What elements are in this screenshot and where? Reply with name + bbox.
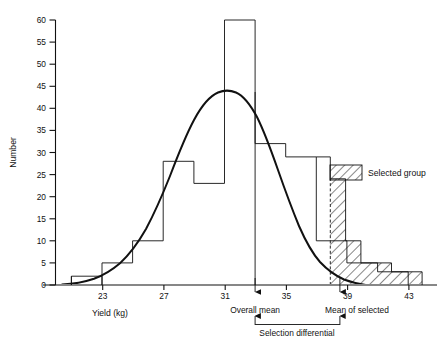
selection-differential-marker: Selection differential xyxy=(255,316,340,338)
overall-mean-marker: Overall mean xyxy=(230,92,280,315)
chart-svg: 0 5 10 15 20 25 30 35 40 45 50 55 60 Num… xyxy=(0,0,439,340)
y-tick-label: 5 xyxy=(41,258,46,268)
x-tick-label: 31 xyxy=(221,291,231,301)
legend: Selected group xyxy=(330,165,426,180)
selected-group-region xyxy=(330,179,422,285)
normal-curve xyxy=(62,91,437,287)
y-axis: 0 5 10 15 20 25 30 35 40 45 50 55 60 Num… xyxy=(8,15,56,290)
x-tick-label: 39 xyxy=(343,291,353,301)
legend-swatch-selected-group xyxy=(330,165,362,180)
y-axis-title: Number xyxy=(8,137,18,168)
overall-mean-label: Overall mean xyxy=(230,305,280,315)
x-axis-ticks xyxy=(103,285,409,290)
y-tick-label: 15 xyxy=(37,214,47,224)
y-tick-label: 10 xyxy=(37,236,47,246)
x-tick-label: 23 xyxy=(98,291,108,301)
selected-hatch-fill xyxy=(330,179,422,285)
y-tick-label: 40 xyxy=(37,103,47,113)
x-tick-label: 27 xyxy=(159,291,169,301)
legend-label-selected-group: Selected group xyxy=(368,168,426,178)
normal-curve-path xyxy=(62,91,437,287)
y-tick-label: 30 xyxy=(37,148,47,158)
y-tick-label: 60 xyxy=(37,15,47,25)
y-tick-label: 20 xyxy=(37,192,47,202)
x-axis-tick-labels: 23 27 31 35 39 43 xyxy=(98,291,414,301)
histogram-figure: 0 5 10 15 20 25 30 35 40 45 50 55 60 Num… xyxy=(0,0,439,340)
y-axis-tick-labels: 0 5 10 15 20 25 30 35 40 45 50 55 60 xyxy=(37,15,47,290)
y-tick-label: 50 xyxy=(37,59,47,69)
y-axis-ticks xyxy=(50,20,56,285)
x-tick-label: 35 xyxy=(282,291,292,301)
selection-differential-label: Selection differential xyxy=(259,328,334,338)
y-tick-label: 25 xyxy=(37,170,47,180)
y-tick-label: 35 xyxy=(37,125,47,135)
y-tick-label: 45 xyxy=(37,81,47,91)
y-tick-label: 55 xyxy=(37,37,47,47)
mean-of-selected-label: Mean of selected xyxy=(325,305,389,315)
x-axis-title: Yield (kg) xyxy=(92,308,128,318)
x-tick-label: 43 xyxy=(404,291,414,301)
